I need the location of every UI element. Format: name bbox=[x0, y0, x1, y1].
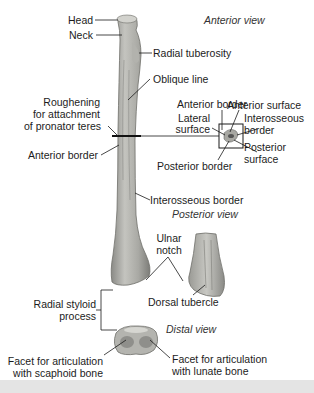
label-facet-lunate-2: with lunate bone bbox=[172, 365, 248, 377]
label-roughening-1: Roughening bbox=[10, 96, 100, 108]
label-facet-scaphoid-2: with scaphoid bone bbox=[0, 367, 103, 379]
label-roughening-2: for attachment bbox=[4, 108, 100, 120]
distal-view-title: Distal view bbox=[166, 323, 216, 335]
label-cs-posterior-border: Posterior border bbox=[157, 160, 232, 172]
posterior-distal-bone bbox=[189, 233, 225, 296]
label-cs-posterior-surface-1: Posterior bbox=[244, 141, 286, 153]
distal-view-bone bbox=[114, 326, 157, 355]
label-cs-lateral-2: surface bbox=[158, 123, 210, 135]
label-radial-tuberosity: Radial tuberosity bbox=[153, 47, 231, 59]
label-radial-styloid-2: process bbox=[10, 310, 96, 322]
label-cs-interosseous-1: Interosseous bbox=[244, 112, 304, 124]
label-facet-lunate-1: Facet for articulation bbox=[172, 353, 267, 365]
label-facet-scaphoid-1: Facet for articulation bbox=[0, 355, 103, 367]
label-dorsal-tubercle: Dorsal tubercle bbox=[148, 296, 219, 308]
label-interosseous-border: Interosseous border bbox=[150, 194, 243, 206]
posterior-view-title: Posterior view bbox=[172, 208, 238, 220]
label-cs-posterior-surface-2: surface bbox=[244, 153, 278, 165]
label-cs-interosseous-2: border bbox=[244, 124, 274, 136]
label-ulnar-notch-1: Ulnar bbox=[155, 232, 183, 244]
label-neck: Neck bbox=[69, 29, 93, 41]
label-radial-styloid-1: Radial styloid bbox=[10, 298, 96, 310]
label-cs-anterior-surface: Anterior surface bbox=[227, 99, 301, 111]
label-roughening-3: of pronator teres bbox=[0, 120, 101, 132]
label-oblique-line: Oblique line bbox=[153, 73, 208, 85]
label-ulnar-notch-2: notch bbox=[153, 244, 185, 256]
label-head: Head bbox=[68, 14, 93, 26]
label-anterior-border: Anterior border bbox=[28, 149, 98, 161]
bottom-band bbox=[0, 380, 314, 393]
anterior-view-title: Anterior view bbox=[204, 14, 265, 26]
anterior-radius-bone bbox=[111, 15, 150, 285]
